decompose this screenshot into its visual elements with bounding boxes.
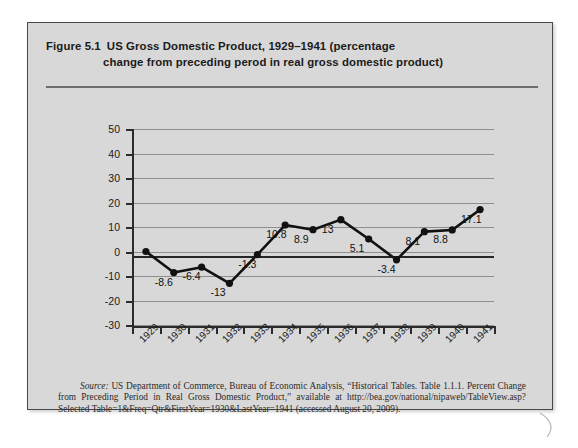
y-tick-label: -30	[90, 319, 120, 331]
data-label-1936: 13	[322, 223, 334, 235]
y-tick-mark	[126, 301, 132, 303]
data-label-1930: -8.6	[155, 276, 173, 288]
data-point-1936	[337, 216, 344, 223]
data-point-1940	[449, 226, 456, 233]
gdp-line-chart: 50403020100-10-20-3019291930193119321933…	[46, 95, 538, 373]
data-label-1935: 8.9	[294, 233, 309, 245]
data-label-1931: -6.4	[183, 270, 201, 282]
figure-title-line1: US Gross Domestic Product, 1929–1941 (pe…	[107, 40, 395, 52]
y-tick-mark	[126, 129, 132, 131]
stray-pen-mark	[538, 412, 560, 438]
data-point-1929	[142, 248, 149, 255]
data-label-1937: 5.1	[350, 242, 365, 254]
y-tick-mark	[126, 178, 132, 180]
y-tick-label: 30	[90, 172, 120, 184]
x-tick-mark	[243, 328, 245, 334]
title-divider	[46, 86, 538, 88]
data-point-1939	[421, 228, 428, 235]
figure-title: Figure 5.1US Gross Domestic Product, 192…	[46, 39, 538, 70]
y-tick-mark	[126, 276, 132, 278]
data-label-1934: 10.8	[266, 228, 286, 240]
y-tick-label: 40	[90, 148, 120, 160]
y-tick-mark	[126, 252, 132, 254]
source-word: Source:	[80, 381, 109, 391]
y-tick-label: 10	[90, 221, 120, 233]
data-point-1935	[309, 226, 316, 233]
data-point-1932	[226, 280, 233, 287]
x-tick-mark	[132, 328, 134, 334]
y-tick-mark	[126, 227, 132, 229]
data-label-1940: 8.8	[433, 233, 448, 245]
y-tick-mark	[126, 325, 132, 327]
data-label-1941: 17.1	[461, 213, 481, 225]
y-tick-label: 0	[90, 246, 120, 258]
data-label-1933: -1.3	[238, 258, 256, 270]
y-tick-label: -20	[90, 295, 120, 307]
data-label-1938: -3.4	[378, 263, 396, 275]
y-tick-mark	[126, 203, 132, 205]
source-note: Source: US Department of Commerce, Burea…	[58, 381, 526, 415]
data-point-1937	[365, 235, 372, 242]
figure-page: Figure 5.1US Gross Domestic Product, 192…	[0, 0, 578, 448]
y-tick-label: 20	[90, 197, 120, 209]
figure-title-line2: change from preceding perod in real gros…	[46, 55, 538, 71]
data-label-1939: 8.1	[405, 235, 420, 247]
y-tick-mark	[126, 154, 132, 156]
data-label-1932: -13	[210, 286, 225, 298]
figure-panel: Figure 5.1US Gross Domestic Product, 192…	[27, 22, 553, 410]
figure-number: Figure 5.1	[46, 40, 101, 52]
y-tick-label: -10	[90, 270, 120, 282]
y-tick-label: 50	[90, 123, 120, 135]
source-text: US Department of Commerce, Bureau of Eco…	[58, 381, 526, 414]
gdp-series	[132, 129, 494, 325]
